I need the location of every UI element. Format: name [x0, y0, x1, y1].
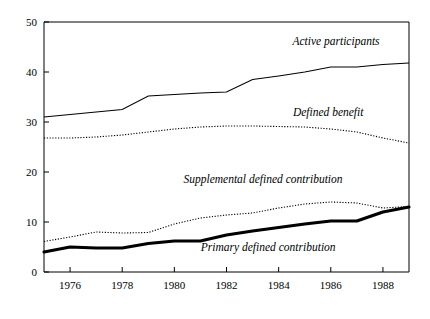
y-tick-label-0: 0: [32, 266, 38, 278]
y-tick-label-10: 10: [26, 216, 38, 228]
y-tick-label-30: 30: [26, 116, 38, 128]
x-tick-label-1982: 1982: [216, 279, 238, 291]
y-axis-ticks: 01020304050: [26, 16, 49, 278]
line-chart-canvas: 01020304050 1976197819801982198419861988…: [0, 0, 430, 319]
series-label-primary-defined-contribution: Primary defined contribution: [200, 241, 336, 254]
series-label-defined-benefit: Defined benefit: [292, 106, 364, 119]
series-line-defined-benefit: [44, 126, 409, 143]
chart-figure: 01020304050 1976197819801982198419861988…: [0, 0, 430, 319]
x-tick-label-1986: 1986: [320, 279, 343, 291]
x-tick-label-1980: 1980: [163, 279, 186, 291]
y-tick-label-20: 20: [26, 166, 38, 178]
series-label-active-participants: Active participants: [291, 35, 380, 48]
x-tick-label-1976: 1976: [59, 279, 82, 291]
x-tick-label-1988: 1988: [372, 279, 395, 291]
x-axis-ticks: 1976197819801982198419861988: [59, 267, 394, 291]
data-series-group: [44, 63, 409, 252]
x-tick-label-1978: 1978: [111, 279, 134, 291]
x-tick-label-1984: 1984: [268, 279, 291, 291]
y-tick-label-40: 40: [26, 66, 38, 78]
y-tick-label-50: 50: [26, 16, 38, 28]
series-label-supplemental-defined-contribution: Supplemental defined contribution: [183, 173, 342, 186]
